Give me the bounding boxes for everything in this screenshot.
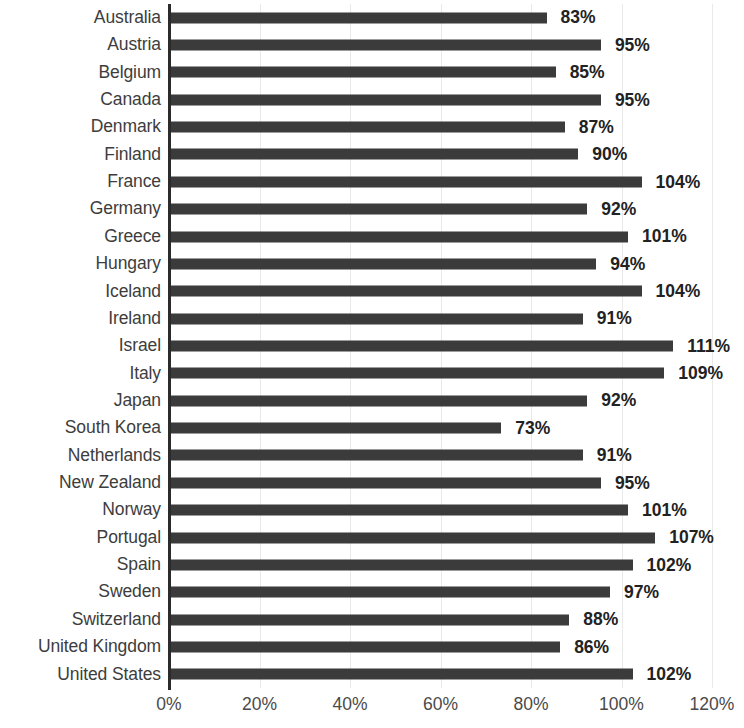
bar <box>171 231 628 242</box>
bar-and-value: 88% <box>171 614 618 625</box>
bar-value-label: 87% <box>579 118 614 136</box>
x-axis-tick-label: 100% <box>599 696 644 714</box>
bar-row: Australia83% <box>0 4 744 31</box>
bar <box>171 587 610 598</box>
bar-row: Hungary94% <box>0 250 744 277</box>
bar-value-label: 102% <box>647 556 692 574</box>
bar <box>171 641 560 652</box>
bar <box>171 12 547 23</box>
category-label: Denmark <box>0 118 161 136</box>
bar-and-value: 92% <box>171 395 636 406</box>
bar-value-label: 95% <box>615 474 650 492</box>
bar-chart: Australia83%Austria95%Belgium85%Canada95… <box>0 0 744 728</box>
bar <box>171 286 642 297</box>
bar <box>171 505 628 516</box>
bar-value-label: 88% <box>583 611 618 629</box>
x-axis-tick-label: 0% <box>156 696 181 714</box>
category-label: Iceland <box>0 283 161 301</box>
category-label: Australia <box>0 9 161 27</box>
bar-value-label: 92% <box>601 200 636 218</box>
bar-and-value: 102% <box>171 669 691 680</box>
bar <box>171 477 601 488</box>
bar <box>171 614 569 625</box>
bar <box>171 532 655 543</box>
bar-row: Spain102% <box>0 551 744 578</box>
bar-value-label: 101% <box>642 501 687 519</box>
category-label: United States <box>0 666 161 684</box>
category-label: Japan <box>0 392 161 410</box>
bar-rows: Australia83%Austria95%Belgium85%Canada95… <box>0 4 744 688</box>
category-label: South Korea <box>0 419 161 437</box>
bar-value-label: 104% <box>656 173 701 191</box>
x-axis-tick-label: 60% <box>423 696 458 714</box>
bar-and-value: 73% <box>171 423 550 434</box>
bar-row: Finland90% <box>0 141 744 168</box>
bar-and-value: 86% <box>171 641 609 652</box>
category-label: Belgium <box>0 64 161 82</box>
category-label: Greece <box>0 228 161 246</box>
bar-row: Switzerland88% <box>0 606 744 633</box>
bar-and-value: 90% <box>171 149 627 160</box>
bar-row: Ireland91% <box>0 305 744 332</box>
bar-row: New Zealand95% <box>0 469 744 496</box>
category-label: Switzerland <box>0 611 161 629</box>
bar <box>171 669 633 680</box>
bar-and-value: 91% <box>171 450 632 461</box>
bar-row: Iceland104% <box>0 278 744 305</box>
bar-row: Netherlands91% <box>0 442 744 469</box>
bar-and-value: 95% <box>171 94 650 105</box>
bar <box>171 149 578 160</box>
bar-row: Greece101% <box>0 223 744 250</box>
category-label: New Zealand <box>0 474 161 492</box>
bar <box>171 176 642 187</box>
bar-and-value: 107% <box>171 532 714 543</box>
bar-and-value: 91% <box>171 313 632 324</box>
category-label: Portugal <box>0 529 161 547</box>
bar-row: Italy109% <box>0 360 744 387</box>
bar <box>171 258 596 269</box>
x-axis-tick-label: 80% <box>513 696 548 714</box>
bar-row: Israel111% <box>0 332 744 359</box>
bar <box>171 67 556 78</box>
category-label: Spain <box>0 556 161 574</box>
bar-and-value: 92% <box>171 204 636 215</box>
bar-row: South Korea73% <box>0 414 744 441</box>
bar-row: Norway101% <box>0 496 744 523</box>
x-axis: 0%20%40%60%80%100%120% <box>169 692 712 728</box>
x-axis-tick-label: 120% <box>690 696 735 714</box>
category-label: Germany <box>0 200 161 218</box>
bar-value-label: 104% <box>656 283 701 301</box>
bar-row: Canada95% <box>0 86 744 113</box>
bar-value-label: 94% <box>610 255 645 273</box>
bar-and-value: 85% <box>171 67 605 78</box>
bar-and-value: 111% <box>171 340 730 351</box>
bar-row: Belgium85% <box>0 59 744 86</box>
bar-and-value: 94% <box>171 258 645 269</box>
bar-value-label: 86% <box>574 638 609 656</box>
bar-value-label: 92% <box>601 392 636 410</box>
bar-row: France104% <box>0 168 744 195</box>
bar-row: Sweden97% <box>0 579 744 606</box>
bar-and-value: 83% <box>171 12 596 23</box>
bar-value-label: 90% <box>592 146 627 164</box>
x-axis-tick-label: 40% <box>332 696 367 714</box>
bar-and-value: 104% <box>171 176 700 187</box>
bar <box>171 423 501 434</box>
bar-row: United States102% <box>0 661 744 688</box>
bar-value-label: 91% <box>597 447 632 465</box>
category-label: Italy <box>0 365 161 383</box>
bar-and-value: 102% <box>171 559 691 570</box>
bar <box>171 40 601 51</box>
bar-value-label: 97% <box>624 583 659 601</box>
category-label: Finland <box>0 146 161 164</box>
bar-row: Denmark87% <box>0 113 744 140</box>
bar-row: Germany92% <box>0 196 744 223</box>
bar-and-value: 104% <box>171 286 700 297</box>
bar-and-value: 109% <box>171 368 723 379</box>
bar <box>171 340 673 351</box>
category-label: United Kingdom <box>0 638 161 656</box>
category-label: Israel <box>0 337 161 355</box>
bar-value-label: 91% <box>597 310 632 328</box>
bar-value-label: 95% <box>615 36 650 54</box>
bar-value-label: 101% <box>642 228 687 246</box>
